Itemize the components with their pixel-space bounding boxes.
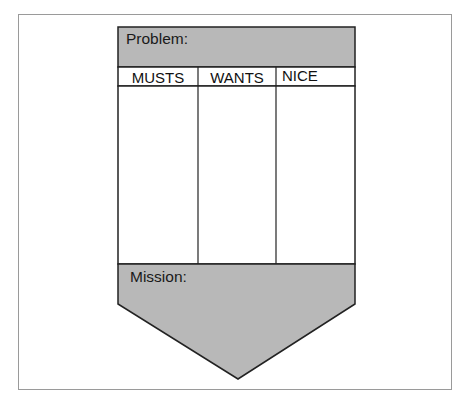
mission-label: Mission: bbox=[130, 268, 187, 286]
columns-body bbox=[118, 86, 355, 264]
column-header-musts: MUSTS bbox=[118, 69, 198, 86]
shield-diagram bbox=[0, 0, 472, 410]
column-header-nice: NICE bbox=[282, 67, 318, 84]
column-header-wants: WANTS bbox=[198, 69, 276, 86]
problem-label: Problem: bbox=[126, 30, 188, 48]
